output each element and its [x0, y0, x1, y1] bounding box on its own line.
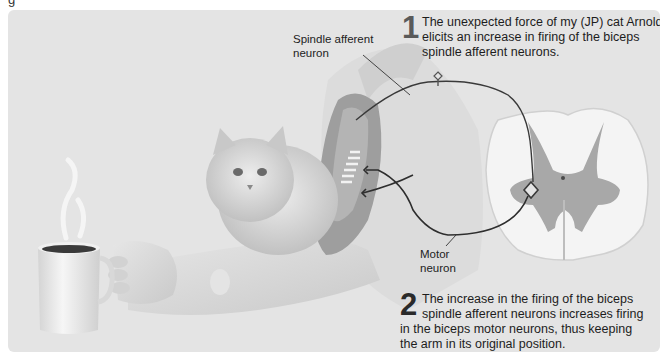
steam: [63, 160, 83, 238]
motor-neuron-label: Motor neuron: [420, 247, 456, 275]
cropped-text-fragment: g: [8, 0, 15, 7]
hand: [108, 241, 177, 304]
step-number: 1: [402, 12, 419, 43]
step-number: 2: [400, 289, 417, 320]
coffee-mug: [38, 242, 112, 334]
step-text-line: spindle afferent neurons.: [422, 45, 660, 60]
spinal-cord-cross-section: [486, 109, 648, 260]
label-line: Motor: [420, 247, 456, 261]
step-text-line: The unexpected force of my (JP) cat Arno…: [422, 15, 660, 30]
label-line: neuron: [420, 261, 456, 275]
figure-panel: Spindle afferent neuron Motor neuron 1 T…: [8, 10, 660, 352]
step-text-line: the arm in its original position.: [400, 337, 660, 352]
spindle-afferent-label: Spindle afferent neuron: [293, 32, 373, 60]
step-1: 1 The unexpected force of my (JP) cat Ar…: [402, 15, 660, 60]
step-text-line: elicits an increase in firing of the bic…: [422, 30, 660, 45]
step-text-line: The increase in the firing of the biceps: [422, 292, 660, 307]
step-text-line: in the biceps motor neurons, thus keepin…: [400, 322, 660, 337]
step-2: 2 The increase in the firing of the bice…: [400, 292, 660, 352]
label-line: Spindle afferent: [293, 32, 373, 46]
step-text-line: spindle afferent neurons increases firin…: [422, 307, 660, 322]
label-line: neuron: [293, 46, 373, 60]
